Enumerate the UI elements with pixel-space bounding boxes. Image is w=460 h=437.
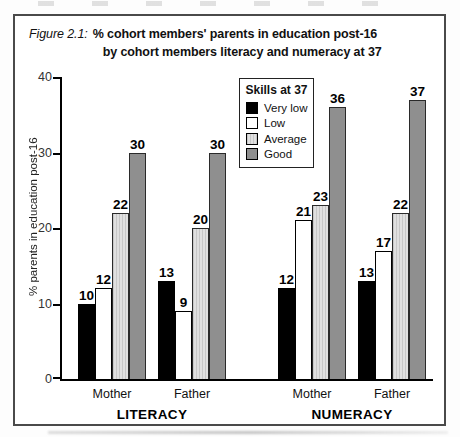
legend-title: Skills at 37 [240,83,313,97]
bar-very-low: 12 [278,288,295,379]
bar-value-label: 13 [359,265,374,280]
bar-average: 23 [312,205,329,379]
bar-value-label: 9 [180,295,188,310]
legend-label: Good [264,148,292,160]
bar-value-label: 21 [296,204,311,219]
legend-item-very-low: Very low [240,100,313,116]
bar-value-label: 12 [96,272,111,287]
bar-value-label: 37 [410,84,425,99]
legend-items: Very lowLowAverageGood [240,100,313,162]
legend-label: Very low [264,102,307,114]
bar-average: 22 [112,213,129,379]
bar-very-low: 13 [358,281,375,379]
bar-value-label: 22 [113,197,128,212]
figure-title-line2: by cohort members literacy and numeracy … [103,45,382,59]
figure-title: Figure 2.1: % cohort members' parents in… [29,26,382,61]
bar-value-label: 22 [393,197,408,212]
legend-item-low: Low [240,116,313,132]
y-axis-tick [53,77,61,79]
bar-value-label: 13 [159,265,174,280]
group-label-literacy: LITERACY [78,407,226,422]
bar-average: 22 [392,213,409,379]
bar-low: 21 [295,220,312,379]
bar-good: 37 [409,100,426,379]
x-axis-label-mother: Mother [278,387,346,401]
x-axis-label-father: Father [358,387,426,401]
bar-value-label: 20 [193,212,208,227]
bar-value-label: 30 [130,137,145,152]
bar-very-low: 13 [158,281,175,379]
y-axis-tick [53,153,61,155]
bar-value-label: 23 [313,189,328,204]
bar-low: 12 [95,288,112,379]
legend-item-good: Good [240,147,313,163]
scan-artifact-top [38,1,388,6]
x-axis-label-mother: Mother [78,387,146,401]
y-axis-tick-label: 0 [26,371,52,387]
group-label-numeracy: NUMERACY [278,407,426,422]
bar-value-label: 36 [330,91,345,106]
bar-value-label: 12 [279,272,294,287]
x-axis-label-father: Father [158,387,226,401]
bar-very-low: 10 [78,304,95,380]
bar-good: 36 [329,107,346,379]
legend-label: Average [264,133,307,145]
bar-subgroup-mother-literacy: 10122230Mother [78,77,146,379]
figure-frame: Figure 2.1: % cohort members' parents in… [13,14,446,426]
bar-subgroup-father-literacy: 1392030Father [158,77,226,379]
figure-title-line1: % cohort members' parents in education p… [93,27,378,41]
legend-swatch-very-low [246,102,258,114]
bar-value-label: 10 [79,288,94,303]
bar-value-label: 17 [376,235,391,250]
legend-swatch-average [246,133,258,145]
bar-good: 30 [129,153,146,380]
y-axis-tick-label: 40 [26,69,52,85]
legend-swatch-low [246,117,258,129]
plot-area: Skills at 37 Very lowLowAverageGood 0102… [60,77,433,381]
bar-subgroup-father-numeracy: 13172237Father [358,77,426,379]
scan-artifact-bottom [48,431,448,434]
figure-number: Figure 2.1: [29,26,88,61]
y-axis-tick [53,228,61,230]
legend: Skills at 37 Very lowLowAverageGood [239,78,314,168]
bar-average: 20 [192,228,209,379]
legend-item-average: Average [240,131,313,147]
bar-value-label: 30 [210,137,225,152]
bar-low: 17 [375,251,392,379]
y-axis-tick-label: 10 [26,296,52,312]
y-axis-tick [53,304,61,306]
y-axis-tick [53,377,61,379]
bar-good: 30 [209,153,226,380]
y-axis-tick-label: 30 [26,145,52,161]
bar-low: 9 [175,311,192,379]
legend-swatch-good [246,148,258,160]
legend-label: Low [264,117,285,129]
y-axis-tick-label: 20 [26,220,52,236]
